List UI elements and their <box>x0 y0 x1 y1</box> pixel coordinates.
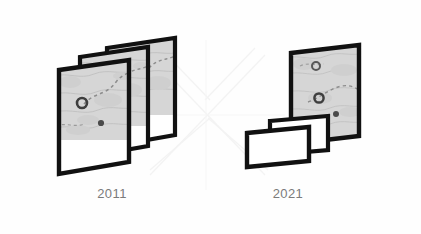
map-card-front-2011 <box>54 56 136 184</box>
card-stack-2011 <box>48 30 188 175</box>
year-label-2021: 2021 <box>250 186 326 201</box>
blank-card-front-2021 <box>243 123 313 173</box>
year-label-2011: 2011 <box>74 186 150 201</box>
illustration-canvas: 2011 <box>0 0 421 234</box>
card-stack-2021 <box>240 30 370 175</box>
